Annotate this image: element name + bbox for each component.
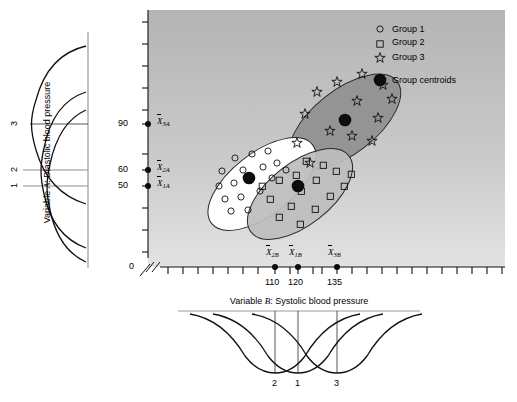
y-axis-title: Variable A: Diastolic blood pressure: [43, 53, 52, 253]
x-mean-label-group3: X3B: [328, 248, 341, 257]
y-mean-symbol-3: X: [157, 116, 163, 126]
legend-label-group1: Group 1: [392, 25, 425, 34]
left-curve-label-1: 1: [10, 183, 19, 188]
y-tick-label-50: 50: [118, 181, 128, 190]
y-mean-label-group1: X1A: [157, 179, 170, 188]
x-mean-sub-1: 1B: [295, 251, 302, 258]
legend-label-centroids: Group centroids: [392, 76, 456, 85]
x-mean-sub-3: 3B: [334, 251, 341, 258]
curve-group3: [32, 46, 87, 204]
x-axis-title: Variable B: Systolic blood pressure: [199, 297, 399, 306]
legend-circle-filled-icon: [374, 74, 387, 87]
x-tick-label-135: 135: [327, 278, 342, 287]
centroid-group2: [292, 180, 305, 193]
y-mean-label-group3: X3A: [157, 117, 170, 126]
y-mean-sub-3: 3A: [163, 120, 170, 127]
y-mean-symbol-2: X: [157, 162, 163, 172]
x-mean-sub-2: 2B: [272, 251, 279, 258]
x-mean-symbol-2: X: [266, 247, 272, 257]
y-mean-label-group2: X2A: [157, 163, 170, 172]
y-mean-symbol-1: X: [157, 178, 163, 188]
legend-label-group2: Group 2: [392, 38, 425, 47]
bottom-curve-label-3: 3: [334, 379, 339, 388]
left-marginal-panel: [23, 32, 88, 268]
y-axis-title-suffix: : Diastolic blood pressure: [42, 82, 52, 183]
x-axis-title-suffix: : Systolic blood pressure: [270, 296, 368, 306]
y-tick-label-0: 0: [129, 262, 134, 271]
x-mean-symbol-1: X: [289, 247, 295, 257]
y-tick-label-60: 60: [118, 165, 128, 174]
x-tick-label-110: 110: [265, 278, 279, 287]
y-axis-title-prefix: Variable: [42, 188, 52, 223]
legend-label-group3: Group 3: [392, 53, 425, 62]
y-tick-label-90: 90: [118, 119, 128, 128]
figure-canvas: [0, 0, 517, 402]
x-tick-label-120: 120: [288, 278, 303, 287]
x-axis-title-prefix: Variable: [230, 296, 265, 306]
x-mean-label-group1: X1B: [289, 248, 302, 257]
x-mean-label-group2: X2B: [266, 248, 279, 257]
bottom-curve-label-1: 1: [295, 379, 300, 388]
y-mean-sub-2: 2A: [163, 166, 170, 173]
y-axis-title-variable: A: [42, 183, 52, 189]
bottom-curve-label-2: 2: [272, 379, 277, 388]
centroid-group3: [339, 114, 352, 127]
y-mean-sub-1: 1A: [163, 182, 170, 189]
x-mean-symbol-3: X: [328, 247, 334, 257]
left-curve-label-2: 2: [10, 167, 19, 172]
centroid-group1: [243, 172, 256, 185]
bottom-marginal-panel: [178, 311, 422, 373]
y-axis: [142, 10, 148, 258]
left-curve-label-3: 3: [10, 121, 19, 126]
figure-root: Group 1 Group 2 Group 3 Group centroids …: [0, 0, 517, 402]
